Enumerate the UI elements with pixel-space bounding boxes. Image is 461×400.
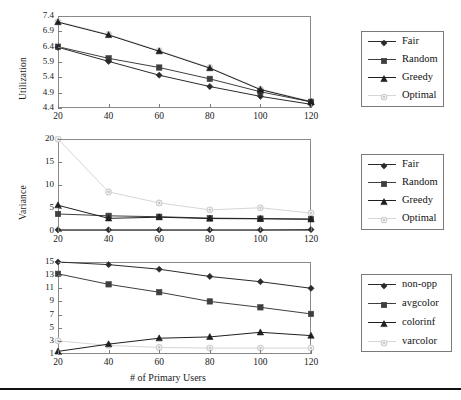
square-marker — [157, 290, 162, 295]
x-tick-mark — [58, 350, 59, 354]
square-marker — [106, 282, 111, 287]
diamond-marker — [378, 37, 390, 49]
x-tick-mark — [311, 350, 312, 354]
diamond-marker — [378, 160, 390, 172]
square-marker — [378, 178, 390, 190]
y-tick-label: 15 — [22, 256, 54, 266]
x-tick-mark — [260, 350, 261, 354]
legend-label: Random — [402, 176, 438, 187]
square-marker — [157, 65, 162, 70]
x-tick-label: 80 — [195, 234, 225, 244]
y-tick-mark — [58, 162, 62, 163]
diamond-marker — [381, 40, 387, 46]
x-tick-mark — [210, 227, 211, 231]
y-tick-label: 7 — [22, 309, 54, 319]
x-tick-label: 120 — [296, 357, 326, 367]
x-tick-label: 80 — [195, 111, 225, 121]
legend-label: non-opp — [402, 278, 437, 289]
x-tick-mark — [109, 350, 110, 354]
y-tick-label: 15 — [22, 156, 54, 166]
diamond-marker — [106, 262, 112, 268]
diamond-marker — [378, 280, 390, 292]
y-tick-mark — [58, 208, 62, 209]
diamond-marker — [381, 163, 387, 169]
series-line-non-opp — [58, 262, 311, 288]
x-tick-mark — [210, 104, 211, 108]
legend-item-varcolor: varcolor — [362, 333, 451, 351]
x-tick-mark — [159, 350, 160, 354]
circle-marker — [106, 189, 112, 195]
x-tick-label: 120 — [296, 111, 326, 121]
y-tick-mark — [58, 341, 62, 342]
bottom-rule — [0, 388, 461, 390]
legend-label: Fair — [402, 158, 419, 169]
chart-panel-utilization: Utilization 4.44.95.45.96.46.97.4 204060… — [0, 0, 461, 125]
y-tick-label: 13 — [22, 269, 54, 279]
legend-label: Greedy — [402, 194, 433, 205]
y-tick-mark — [58, 275, 62, 276]
diamond-marker — [308, 285, 314, 291]
y-tick-label: 6.9 — [22, 25, 54, 35]
x-tick-mark — [58, 104, 59, 108]
y-tick-mark — [58, 288, 62, 289]
x-tick-label: 20 — [43, 234, 73, 244]
triangle-marker — [378, 196, 390, 208]
square-marker — [258, 305, 263, 310]
y-tick-mark — [58, 185, 62, 186]
x-tick-label: 100 — [245, 234, 275, 244]
x-tick-mark — [159, 104, 160, 108]
y-tick-label: 4.9 — [22, 87, 54, 97]
circle-marker — [381, 340, 387, 346]
legend-1: FairRandomGreedyOptimal — [361, 31, 444, 107]
square-marker — [308, 311, 313, 316]
x-tick-label: 60 — [144, 357, 174, 367]
circle-marker — [381, 94, 387, 100]
series-line-avgcolor — [58, 274, 311, 314]
diamond-marker — [207, 273, 213, 279]
y-tick-mark — [58, 77, 62, 78]
y-tick-label: 20 — [22, 133, 54, 143]
legend-2: FairRandomGreedyOptimal — [361, 154, 444, 230]
x-tick-mark — [210, 350, 211, 354]
legend-label: colorinf — [402, 316, 435, 327]
y-tick-mark — [58, 108, 62, 109]
series-line-Random — [58, 47, 311, 102]
square-marker — [381, 58, 386, 63]
diamond-marker — [156, 266, 162, 272]
triangle-marker — [378, 318, 390, 330]
legend-label: avgcolor — [402, 297, 439, 308]
y-tick-label: 6.4 — [22, 41, 54, 51]
x-tick-mark — [260, 104, 261, 108]
x-tick-mark — [109, 227, 110, 231]
legend-item-Optimal: Optimal — [362, 210, 443, 228]
legend-item-Greedy: Greedy — [362, 69, 443, 87]
triangle-marker — [257, 329, 263, 335]
legend-item-Random: Random — [362, 51, 443, 69]
diamond-marker — [156, 72, 162, 78]
series-line-Greedy — [58, 22, 311, 102]
legend-item-Fair: Fair — [362, 156, 443, 174]
legend-item-Fair: Fair — [362, 33, 443, 51]
x-tick-label: 20 — [43, 357, 73, 367]
legend-label: varcolor — [402, 335, 437, 346]
y-tick-label: 10 — [22, 179, 54, 189]
x-axis-label: # of Primary Users — [130, 372, 206, 383]
x-tick-mark — [159, 227, 160, 231]
x-tick-label: 20 — [43, 111, 73, 121]
diamond-marker — [381, 283, 387, 289]
triangle-marker — [381, 321, 387, 327]
square-marker — [378, 55, 390, 67]
series-line-Optimal — [58, 22, 311, 102]
chart-panel-variance: Variance 05101520 20406080100120 FairRan… — [0, 125, 461, 250]
legend-label: Optimal — [402, 212, 436, 223]
x-tick-label: 100 — [245, 111, 275, 121]
y-tick-mark — [58, 231, 62, 232]
x-tick-label: 120 — [296, 234, 326, 244]
x-tick-mark — [109, 104, 110, 108]
circle-marker — [156, 200, 162, 206]
legend-label: Greedy — [402, 71, 433, 82]
y-tick-mark — [58, 301, 62, 302]
legend-item-avgcolor: avgcolor — [362, 295, 451, 313]
x-tick-label: 40 — [94, 234, 124, 244]
y-tick-mark — [58, 47, 62, 48]
